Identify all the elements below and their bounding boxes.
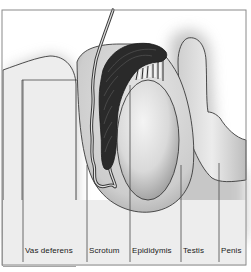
label-penis: Penis [221, 246, 242, 255]
label-testis: Testis [183, 246, 204, 255]
anatomy-diagram [0, 0, 251, 272]
label-epididymis: Epididymis [132, 246, 172, 255]
testis-shape [117, 80, 179, 200]
lower-background [3, 200, 246, 266]
label-vas-deferens: Vas deferens [25, 246, 73, 255]
label-scrotum: Scrotum [89, 246, 120, 255]
